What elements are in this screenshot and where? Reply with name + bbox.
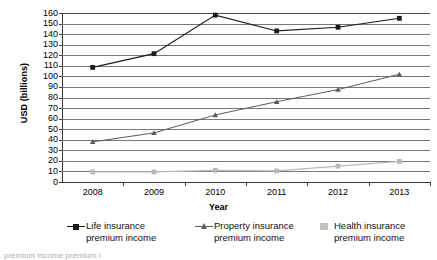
square-marker <box>397 159 402 164</box>
y-tick-label: 150 <box>30 19 58 28</box>
square-marker <box>66 221 86 232</box>
x-axis-title: Year <box>0 202 437 212</box>
legend-key-shape <box>73 224 79 230</box>
square-marker <box>90 65 95 70</box>
x-tick-mark <box>246 182 247 186</box>
series-line <box>93 15 400 67</box>
series-line <box>93 161 400 172</box>
square-marker <box>152 51 157 56</box>
y-tick-label: 140 <box>30 30 58 39</box>
line-chart: USD (billions) 1601501401301201101009080… <box>0 0 437 260</box>
square-marker <box>274 29 279 34</box>
x-tick-mark <box>123 182 124 186</box>
y-tick-label: 10 <box>30 167 58 176</box>
y-tick-label: 80 <box>30 93 58 102</box>
square-marker <box>90 170 95 175</box>
triangle-marker <box>397 72 403 77</box>
chart-legend: Life insurance premium incomeProperty in… <box>66 220 426 248</box>
legend-item-property: Property insurance premium income <box>194 220 314 243</box>
x-tick-mark <box>430 182 431 186</box>
legend-item-life: Life insurance premium income <box>66 220 194 243</box>
legend-key-shape <box>201 223 207 229</box>
square-marker <box>213 13 218 18</box>
series-line <box>93 74 400 142</box>
clipped-caption: premium income premium i <box>4 252 254 260</box>
square-marker <box>152 170 157 175</box>
square-marker <box>336 164 341 169</box>
legend-label: Property insurance premium income <box>214 220 294 243</box>
x-tick-label: 2011 <box>255 187 299 197</box>
square-marker <box>336 25 341 30</box>
y-tick-label: 20 <box>30 156 58 165</box>
y-tick-label: 0 <box>30 178 58 187</box>
x-tick-label: 2012 <box>316 187 360 197</box>
y-tick-label: 130 <box>30 40 58 49</box>
square-marker <box>397 16 402 21</box>
y-tick-label: 120 <box>30 51 58 60</box>
square-marker <box>274 169 279 174</box>
y-tick-label: 40 <box>30 135 58 144</box>
y-tick-label: 70 <box>30 104 58 113</box>
x-tick-mark <box>185 182 186 186</box>
series-layer <box>62 13 430 183</box>
y-tick-label: 90 <box>30 82 58 91</box>
x-tick-label: 2013 <box>377 187 421 197</box>
y-tick-label: 50 <box>30 125 58 134</box>
y-tick-label: 110 <box>30 61 58 70</box>
y-tick-label: 100 <box>30 72 58 81</box>
y-tick-label: 30 <box>30 146 58 155</box>
x-tick-mark <box>307 182 308 186</box>
x-tick-label: 2009 <box>132 187 176 197</box>
square-marker <box>213 168 218 173</box>
legend-label: Life insurance premium income <box>86 220 156 243</box>
clipped-caption-text: premium income premium i <box>4 252 254 260</box>
x-tick-label: 2008 <box>71 187 115 197</box>
legend-label: Health insurance premium income <box>334 220 405 243</box>
x-tick-label: 2010 <box>193 187 237 197</box>
square-marker <box>314 221 334 232</box>
y-tick-label: 160 <box>30 9 58 18</box>
triangle-marker <box>194 221 214 232</box>
y-tick-label: 60 <box>30 114 58 123</box>
legend-key-shape <box>320 223 328 230</box>
x-tick-mark <box>369 182 370 186</box>
legend-item-health: Health insurance premium income <box>314 220 424 243</box>
